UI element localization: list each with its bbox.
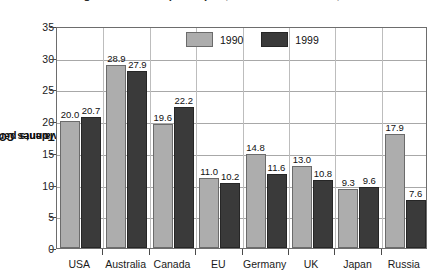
x-tick-mark: [334, 249, 335, 255]
bar-value-label: 20.0: [61, 109, 80, 120]
x-axis-label-japan: Japan: [343, 258, 372, 270]
bar-value-label: 27.9: [128, 59, 147, 70]
legend-label: 1990: [220, 34, 243, 46]
legend-swatch: [186, 32, 213, 47]
x-axis-label-russia: Russia: [388, 258, 420, 270]
bar: [174, 107, 194, 248]
x-tick-mark: [381, 249, 382, 255]
bar-group: 9.39.6: [335, 28, 381, 248]
bar: [406, 200, 426, 248]
bar-group: 20.020.7: [57, 28, 103, 248]
chart-page: Greenhouse gas emissions per capita, sel…: [0, 0, 435, 276]
bar: [385, 134, 405, 248]
bar: [199, 178, 219, 248]
legend-item-1990: 1990: [186, 32, 243, 47]
group-separator: [150, 28, 151, 248]
bar-value-label: 10.2: [221, 171, 240, 182]
bar-value-label: 22.2: [175, 95, 194, 106]
group-separator: [289, 28, 290, 248]
legend-label: 1999: [295, 34, 318, 46]
bar: [127, 71, 147, 248]
plot-area: 20.020.728.927.919.622.211.010.214.811.6…: [56, 27, 427, 249]
y-tick-label: 15: [14, 148, 54, 160]
y-tick-label: 30: [14, 53, 54, 65]
bar: [60, 121, 80, 248]
bar-value-label: 11.6: [268, 162, 286, 173]
x-tick-mark: [242, 249, 243, 255]
bar: [106, 65, 126, 248]
bar-value-label: 11.0: [200, 166, 218, 177]
x-axis-label-usa: USA: [68, 258, 90, 270]
bar-value-label: 28.9: [107, 53, 126, 64]
group-separator: [196, 28, 197, 248]
y-tick-label: 10: [14, 180, 54, 192]
bar: [313, 180, 333, 249]
group-separator: [103, 28, 104, 248]
bar-group: 11.010.2: [196, 28, 242, 248]
group-separator: [243, 28, 244, 248]
bar: [292, 166, 312, 248]
y-tick-label: 35: [14, 21, 54, 33]
x-tick-mark: [195, 249, 196, 255]
legend: 19901999: [186, 32, 319, 47]
y-tick-mark: [50, 249, 56, 250]
x-axis-label-germany: Germany: [243, 258, 286, 270]
x-tick-mark: [288, 249, 289, 255]
legend-item-1999: 1999: [261, 32, 318, 47]
x-axis-label-eu: EU: [211, 258, 226, 270]
x-tick-mark: [149, 249, 150, 255]
bar-group: 19.622.2: [150, 28, 196, 248]
x-axis-label-canada: Canada: [154, 258, 191, 270]
bar: [338, 189, 358, 248]
x-axis-label-australia: Australia: [105, 258, 146, 270]
chart-title: Greenhouse gas emissions per capita, sel…: [0, 0, 435, 3]
bar: [153, 124, 173, 248]
bar-value-label: 9.3: [342, 177, 355, 188]
group-separator: [382, 28, 383, 248]
y-tick-label: 20: [14, 116, 54, 128]
bar-value-label: 17.9: [385, 122, 404, 133]
bar-value-label: 14.8: [246, 142, 265, 153]
bar: [220, 183, 240, 248]
bar-group: 13.010.8: [289, 28, 335, 248]
bar: [246, 154, 266, 248]
y-tick-label: 0: [14, 243, 54, 255]
x-axis-label-uk: UK: [304, 258, 319, 270]
bar-group: 17.97.6: [382, 28, 428, 248]
bar: [267, 174, 287, 248]
bar-value-label: 9.6: [363, 175, 376, 186]
y-tick-label: 5: [14, 211, 54, 223]
x-tick-mark: [102, 249, 103, 255]
bar-value-label: 13.0: [293, 154, 312, 165]
bar-series-layer: 20.020.728.927.919.622.211.010.214.811.6…: [57, 28, 426, 248]
legend-swatch: [261, 32, 288, 47]
bar: [359, 187, 379, 248]
bar-value-label: 20.7: [82, 105, 101, 116]
group-separator: [335, 28, 336, 248]
bar-value-label: 7.6: [409, 188, 422, 199]
bar-group: 14.811.6: [243, 28, 289, 248]
bar-group: 28.927.9: [103, 28, 149, 248]
bar: [81, 117, 101, 248]
y-tick-label: 25: [14, 84, 54, 96]
bar-value-label: 19.6: [154, 112, 173, 123]
bar-value-label: 10.8: [314, 168, 333, 179]
